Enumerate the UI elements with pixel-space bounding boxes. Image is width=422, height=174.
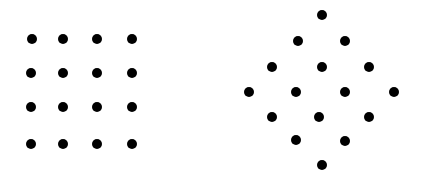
dot [267, 112, 277, 122]
dot [340, 36, 350, 46]
dot [364, 62, 374, 72]
dot [317, 160, 327, 170]
dot [340, 136, 350, 146]
dot [389, 87, 399, 97]
dot [314, 112, 324, 122]
dot [317, 10, 327, 20]
dot [291, 87, 301, 97]
dot [364, 112, 374, 122]
dot [244, 87, 254, 97]
dot [267, 62, 277, 72]
dot [291, 135, 301, 145]
dot [293, 36, 303, 46]
diamond-dot-lattice [0, 0, 422, 174]
dot [317, 62, 327, 72]
dot [340, 87, 350, 97]
